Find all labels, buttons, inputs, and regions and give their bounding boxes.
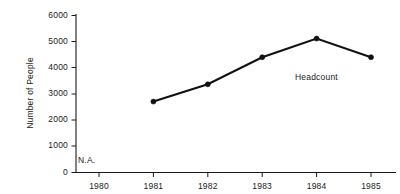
x-tick-label: 1983 bbox=[252, 181, 272, 191]
y-tick-label: 6000 bbox=[48, 10, 68, 20]
x-tick-label: 1981 bbox=[144, 181, 164, 191]
y-tick-label: 1000 bbox=[48, 140, 68, 150]
y-axis-title: Number of People bbox=[25, 57, 35, 129]
data-point-1982 bbox=[205, 82, 210, 87]
y-tick-label: 3000 bbox=[48, 88, 68, 98]
data-point-1983 bbox=[260, 55, 265, 60]
chart-svg: 0 1000 2000 3000 4000 5000 6000 1980 198… bbox=[0, 0, 400, 194]
x-tick-label: 1982 bbox=[198, 181, 218, 191]
line-chart: 0 1000 2000 3000 4000 5000 6000 1980 198… bbox=[0, 0, 400, 194]
y-tick-label: 0 bbox=[63, 167, 68, 177]
x-tick-label: 1980 bbox=[89, 181, 109, 191]
data-point-1985 bbox=[369, 55, 374, 60]
data-point-1981 bbox=[151, 99, 156, 104]
y-tick-label: 5000 bbox=[48, 36, 68, 46]
missing-data-note: N.A. bbox=[78, 155, 95, 165]
y-tick-label: 4000 bbox=[48, 62, 68, 72]
x-tick-label: 1985 bbox=[361, 181, 381, 191]
series-annotation-headcount: Headcount bbox=[295, 72, 338, 82]
y-tick-label: 2000 bbox=[48, 114, 68, 124]
x-tick-label: 1984 bbox=[307, 181, 327, 191]
data-point-1984 bbox=[314, 36, 319, 41]
